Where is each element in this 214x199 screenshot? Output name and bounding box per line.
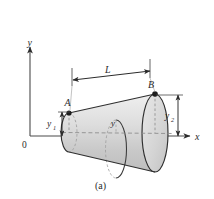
point-b-label: B (148, 79, 154, 90)
figure-container: y x 0 A B L y 1 y 2 y (a) (0, 0, 214, 199)
dimension-y2-label: y (164, 111, 170, 121)
figure-caption: (a) (95, 180, 106, 192)
body-radius-label: y (110, 118, 115, 128)
point-a-marker (66, 110, 71, 115)
dimension-y1-label-group: y 1 (46, 119, 56, 131)
x-axis-label: x (194, 131, 200, 142)
frustum-solid (61, 94, 172, 178)
dimension-L-line (73, 71, 150, 80)
dimension-L-label: L (104, 64, 111, 75)
point-a-label: A (64, 97, 72, 108)
dimension-y2-subscript: 2 (171, 116, 174, 123)
y-axis-label: y (27, 37, 33, 48)
point-b-marker (152, 91, 158, 97)
dimension-y1-label: y (46, 119, 52, 129)
origin-label: 0 (22, 140, 27, 150)
frustum-diagram: y x 0 A B L y 1 y 2 y (a) (0, 0, 214, 199)
dimension-y1-subscript: 1 (53, 124, 56, 131)
